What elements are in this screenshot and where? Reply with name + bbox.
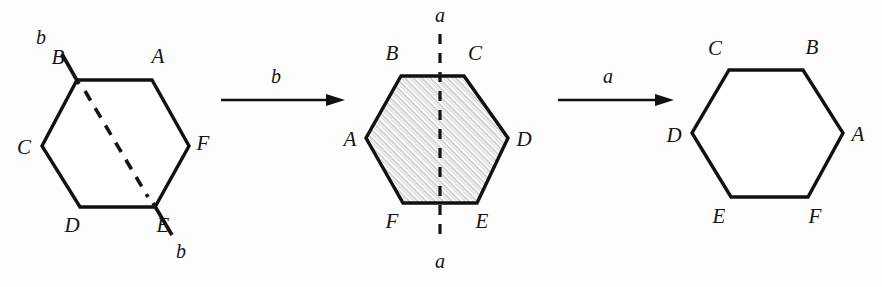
panel-middle: a a B C A D F E [342,4,532,272]
figure-container: b b B A C F D E b a a B C A D F [0,0,882,287]
vertex-label-right-B: B [806,35,819,59]
vertex-label-right-E: E [712,204,726,228]
vertex-label-middle-A: A [342,127,357,151]
vertex-label-middle-C: C [468,41,483,65]
arrow-2-label: a [603,65,613,87]
panel-left: b b B A C F D E [17,26,210,262]
vertex-label-right-D: D [665,123,681,147]
axis-stub-b-top [62,54,79,84]
vertex-label-middle-B: B [386,41,399,65]
vertex-label-left-D: D [63,213,79,237]
hexagon-symmetry-diagram: b b B A C F D E b a a B C A D F [0,0,882,287]
vertex-label-right-C: C [708,36,723,60]
vertex-label-right-F: F [808,204,822,228]
axis-label-a-top: a [435,4,445,26]
axis-label-b-bottom: b [176,240,186,262]
vertex-label-left-B: B [52,45,65,69]
panel-right: C B D A E F [665,35,864,228]
arrow-2-head-icon [655,94,674,106]
arrow-2-group: a [558,65,674,106]
arrow-1-label: b [271,65,281,87]
vertex-label-middle-E: E [475,209,489,233]
arrow-1-head-icon [326,94,345,106]
vertex-label-left-F: F [196,131,210,155]
axis-label-b-top: b [36,26,46,48]
vertex-label-left-A: A [150,44,165,68]
vertex-label-left-E: E [156,213,170,237]
axis-label-a-bottom: a [435,250,445,272]
vertex-label-middle-D: D [515,127,531,151]
vertex-label-middle-F: F [385,209,399,233]
vertex-label-left-C: C [17,135,32,159]
vertex-label-right-A: A [850,122,865,146]
arrow-1-group: b [221,65,345,106]
